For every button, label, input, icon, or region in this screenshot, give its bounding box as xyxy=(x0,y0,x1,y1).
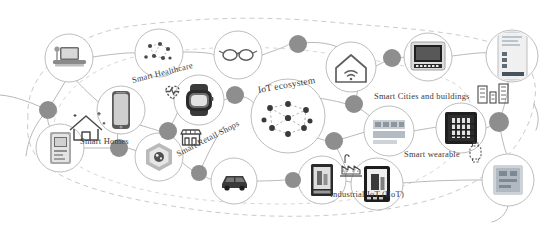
router-icon xyxy=(50,132,71,164)
label-smart-homes: Smart Homes xyxy=(80,137,129,146)
node-smart-home-wifi[interactable] xyxy=(326,42,376,92)
hub-top-right[interactable] xyxy=(383,49,401,67)
hub-left[interactable] xyxy=(39,101,57,119)
diagram-canvas xyxy=(0,0,544,227)
smartphone-icon xyxy=(112,91,130,129)
label-smart-wearable: Smart wearable xyxy=(404,150,460,159)
server-rack-icon xyxy=(445,112,477,144)
tablet-icon xyxy=(493,165,523,195)
iot-ecosystem-diagram: Smart Healthcare Smart Homes Smart Retai… xyxy=(0,0,544,227)
hub-industrial[interactable] xyxy=(285,172,301,188)
hub-retail[interactable] xyxy=(159,122,177,140)
city-buildings-icon xyxy=(478,84,508,103)
hub-top-center[interactable] xyxy=(289,35,307,53)
hub-far-right[interactable] xyxy=(489,112,509,132)
hub-lower-left[interactable] xyxy=(191,165,207,181)
meter-panel-icon xyxy=(498,32,527,80)
hub-healthcare[interactable] xyxy=(226,86,244,104)
node-smart-glasses[interactable] xyxy=(214,31,262,79)
hub-ecosystem-right[interactable] xyxy=(325,132,343,150)
label-industrial-iiot: Industrial IoT (IIoT) xyxy=(330,190,404,199)
hub-mid-right[interactable] xyxy=(345,95,363,113)
label-smart-cities-and-buildings: Smart Cities and buildings xyxy=(374,92,470,101)
monitor-icon xyxy=(411,42,445,70)
